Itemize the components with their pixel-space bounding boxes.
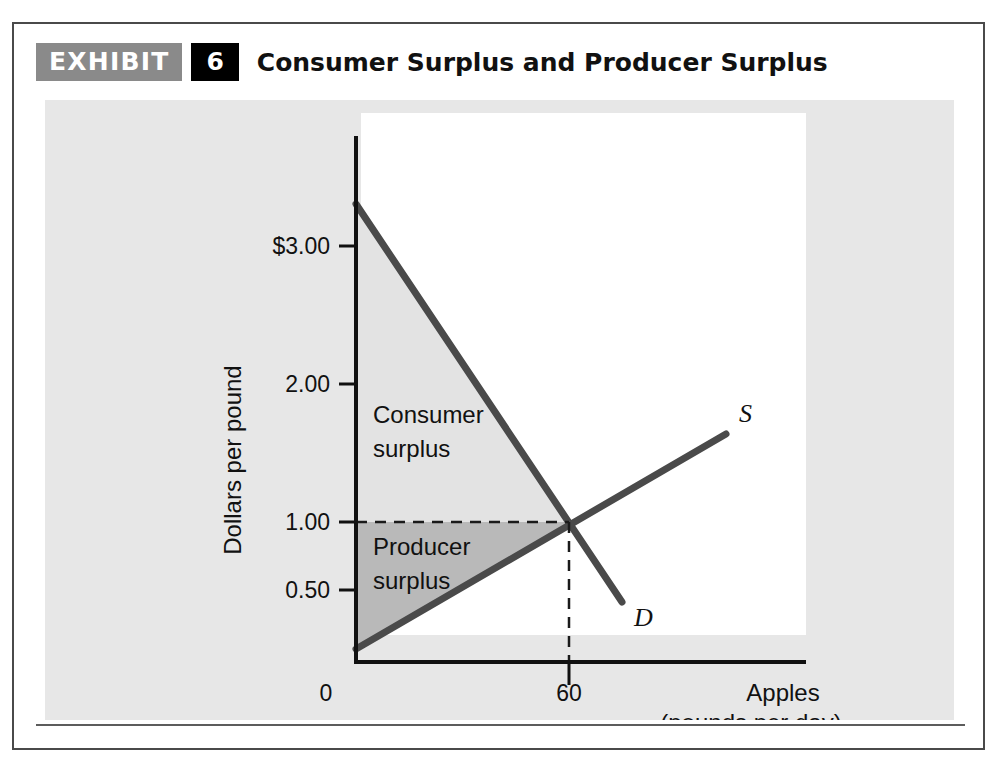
y-axis-title: Dollars per pound bbox=[219, 365, 246, 554]
x-tick-label-60: 60 bbox=[556, 680, 582, 706]
y-tick-label-2: 2.00 bbox=[285, 371, 330, 397]
exhibit-header: EXHIBIT 6 Consumer Surplus and Producer … bbox=[14, 24, 983, 100]
producer-surplus-label-line1: Producer bbox=[373, 533, 470, 560]
y-tick-label-1: 1.00 bbox=[285, 509, 330, 535]
exhibit-frame: EXHIBIT 6 Consumer Surplus and Producer … bbox=[12, 22, 985, 750]
consumer-surplus-label-line1: Consumer bbox=[373, 401, 484, 428]
x-axis-subtitle: (pounds per day) bbox=[660, 709, 841, 720]
y-tick-label-3: $3.00 bbox=[272, 233, 330, 259]
figure-panel: $3.00 2.00 1.00 0.50 0 60 Dollars per po… bbox=[45, 100, 954, 720]
producer-surplus-label-line2: surplus bbox=[373, 567, 450, 594]
bottom-divider bbox=[36, 724, 965, 726]
supply-curve-label: S bbox=[739, 399, 752, 428]
exhibit-number-badge: 6 bbox=[191, 43, 238, 81]
supply-demand-chart: $3.00 2.00 1.00 0.50 0 60 Dollars per po… bbox=[45, 100, 954, 720]
exhibit-title: Consumer Surplus and Producer Surplus bbox=[257, 48, 828, 77]
x-tick-label-0: 0 bbox=[320, 680, 333, 706]
x-axis-title: Apples bbox=[746, 679, 819, 706]
consumer-surplus-label-line2: surplus bbox=[373, 435, 450, 462]
y-tick-label-0-50: 0.50 bbox=[285, 577, 330, 603]
demand-curve-label: D bbox=[633, 603, 653, 632]
exhibit-tag-badge: EXHIBIT bbox=[36, 43, 182, 81]
